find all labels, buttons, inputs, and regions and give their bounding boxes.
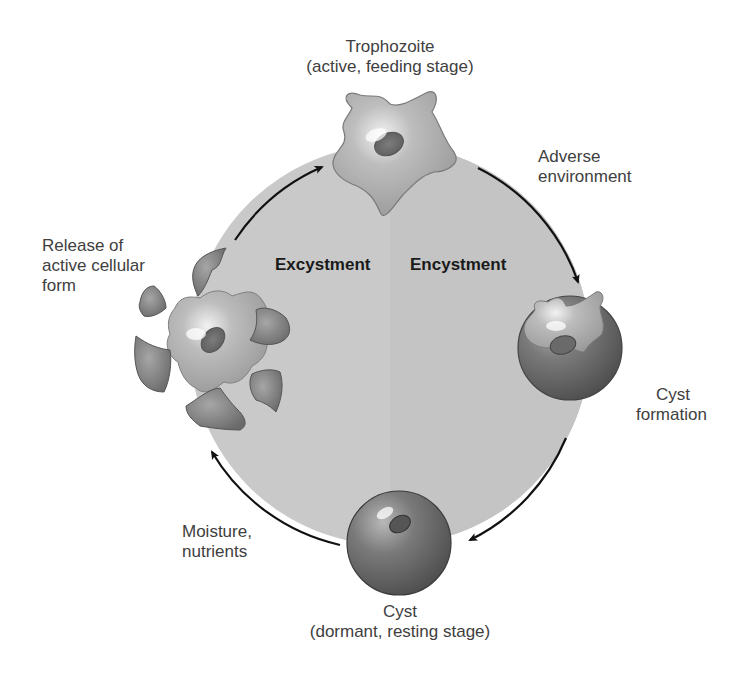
cyst-label: Cyst (dormant, resting stage)	[295, 602, 505, 642]
trophozoite-label: Trophozoite (active, feeding stage)	[300, 37, 480, 77]
cycle-artwork	[0, 0, 755, 682]
release-line3: form	[42, 276, 145, 296]
adverse-line2: environment	[538, 167, 632, 187]
cyst-cell	[347, 491, 451, 595]
cyst-formation-line1: Cyst	[636, 385, 707, 405]
release-line2: active cellular	[42, 256, 145, 276]
cyst-formation-line2: formation	[636, 405, 707, 425]
life-cycle-diagram: Trophozoite (active, feeding stage) Adve…	[0, 0, 755, 682]
encystment-phase-label: Encystment	[410, 255, 506, 275]
trophozoite-desc: (active, feeding stage)	[300, 57, 480, 77]
release-line1: Release of	[42, 236, 145, 256]
moisture-line1: Moisture,	[182, 522, 252, 542]
cyst-formation-label: Cyst formation	[636, 385, 707, 425]
moisture-line2: nutrients	[182, 542, 252, 562]
release-label: Release of active cellular form	[42, 236, 145, 296]
cyst-name: Cyst	[295, 602, 505, 622]
cyst-desc: (dormant, resting stage)	[295, 622, 505, 642]
adverse-line1: Adverse	[538, 147, 632, 167]
excystment-phase-label: Excystment	[275, 255, 370, 275]
trophozoite-name: Trophozoite	[300, 37, 480, 57]
adverse-environment-label: Adverse environment	[538, 147, 632, 187]
moisture-nutrients-label: Moisture, nutrients	[182, 522, 252, 562]
